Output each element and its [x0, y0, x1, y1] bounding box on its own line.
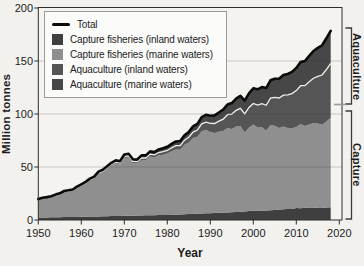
y-tick-label-100: 100	[0, 107, 33, 121]
legend-item-1: Capture fisheries (inland waters)	[52, 32, 222, 47]
legend-item-2: Capture fisheries (marine waters)	[52, 47, 222, 62]
y-tick-label-0: 0	[0, 213, 33, 227]
fisheries-production-chart: Million tonnes Year Aquaculture Capture …	[0, 0, 364, 266]
x-axis-title: Year	[38, 246, 342, 260]
legend-label-1: Capture fisheries (inland waters)	[70, 32, 209, 47]
legend-item-3: Aquaculture (inland waters)	[52, 62, 222, 77]
y-tick-label-150: 150	[0, 54, 33, 68]
x-tick-label-1950: 1950	[18, 227, 58, 240]
x-tick-label-1970: 1970	[104, 227, 144, 240]
x-tick-label-1980: 1980	[147, 227, 187, 240]
x-tick-label-1960: 1960	[61, 227, 101, 240]
legend-label-3: Aquaculture (inland waters)	[70, 62, 188, 77]
legend-swatch-1	[52, 34, 63, 45]
y-tick-label-200: 200	[0, 1, 33, 15]
legend-label-2: Capture fisheries (marine waters)	[70, 47, 213, 62]
x-tick-label-2010: 2010	[276, 227, 316, 240]
legend-label-4: Aquaculture (marine waters)	[70, 77, 192, 92]
y-tick-label-50: 50	[0, 160, 33, 174]
legend-item-total: Total	[52, 16, 222, 32]
capture-bracket-label: Capture	[351, 110, 363, 220]
legend-swatch-2	[52, 49, 63, 60]
x-tick-label-2020: 2020	[319, 227, 359, 240]
aquaculture-bracket-label: Aquaculture	[351, 27, 363, 107]
x-tick-label-1990: 1990	[190, 227, 230, 240]
legend-swatch-4	[52, 79, 63, 90]
legend-swatch-3	[52, 64, 63, 75]
legend: TotalCapture fisheries (inland waters)Ca…	[44, 11, 227, 98]
legend-item-4: Aquaculture (marine waters)	[52, 77, 222, 92]
legend-label-total: Total	[77, 17, 97, 32]
total-line-swatch	[52, 23, 70, 26]
x-tick-label-2000: 2000	[233, 227, 273, 240]
